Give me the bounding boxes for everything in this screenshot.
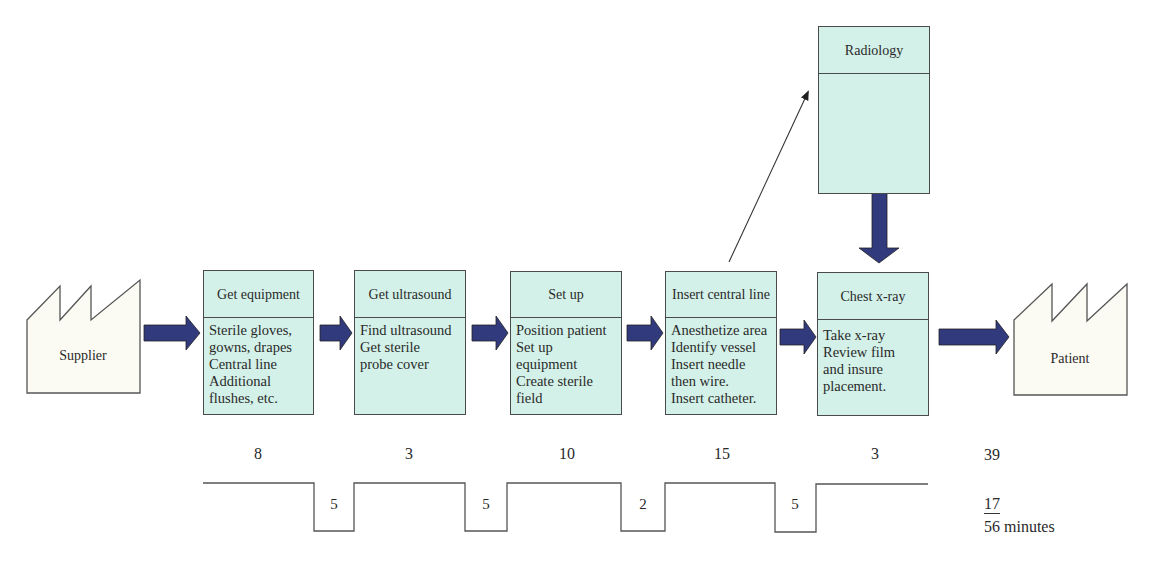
total-process-time: 39	[984, 446, 1000, 464]
radiology-process-box: Radiology	[818, 26, 930, 194]
flow-arrow-ultrasound-to-setup	[472, 316, 508, 350]
process-details: Anesthetize area Identify vessel Insert …	[666, 318, 776, 414]
process-details: Position patient Set up equipment Create…	[511, 318, 621, 414]
process-time-chest-x-ray: 3	[855, 445, 895, 463]
process-time-get-ultrasound: 3	[389, 445, 429, 463]
process-box-get-ultrasound: Get ultrasound Find ultrasound Get steri…	[354, 270, 466, 415]
timeline-ladder	[203, 483, 928, 532]
radiology-title: Radiology	[819, 27, 929, 74]
wait-time-3: 2	[628, 496, 658, 513]
wait-time-2: 5	[471, 496, 501, 513]
wait-time-4: 5	[780, 496, 810, 513]
radiology-details	[819, 74, 929, 193]
supplier-label: Supplier	[27, 348, 139, 364]
process-title: Insert central line	[666, 272, 776, 318]
process-title: Chest x-ray	[818, 273, 928, 320]
process-time-insert-central-line: 15	[702, 445, 742, 463]
process-box-chest-x-ray: Chest x-ray Take x-ray Review film and i…	[817, 272, 929, 416]
wait-time-1: 5	[319, 496, 349, 513]
process-box-set-up: Set up Position patient Set up equipment…	[510, 271, 622, 415]
process-title: Get ultrasound	[355, 271, 465, 318]
process-details: Find ultrasound Get sterile probe cover	[355, 318, 465, 414]
total-wait-time: 17	[984, 495, 1000, 514]
process-title: Set up	[511, 272, 621, 318]
process-details: Sterile gloves, gowns, drapes Central li…	[204, 318, 313, 414]
flow-arrow-setup-to-insertline	[627, 316, 663, 350]
process-box-insert-central-line: Insert central line Anesthetize area Ide…	[665, 271, 777, 415]
patient-factory-icon	[1014, 284, 1127, 395]
process-time-set-up: 10	[547, 445, 587, 463]
total-lead-time: 56 minutes	[984, 518, 1055, 536]
flow-arrow-supplier-to-equipment	[144, 316, 200, 350]
flow-arrow-xray-to-patient	[939, 320, 1009, 354]
request-arrow-to-radiology	[729, 92, 808, 262]
process-title: Get equipment	[204, 271, 313, 318]
process-details: Take x-ray Review film and insure placem…	[818, 320, 928, 415]
patient-label: Patient	[1014, 351, 1126, 367]
flow-arrow-equipment-to-ultrasound	[320, 316, 352, 350]
process-time-get-equipment: 8	[238, 445, 278, 463]
flow-arrow-insertline-to-xray	[780, 320, 816, 354]
supplier-factory-icon	[27, 280, 140, 393]
value-stream-map: Supplier Patient Radiology Get equipment…	[0, 0, 1150, 564]
process-box-get-equipment: Get equipment Sterile gloves, gowns, dra…	[203, 270, 314, 415]
